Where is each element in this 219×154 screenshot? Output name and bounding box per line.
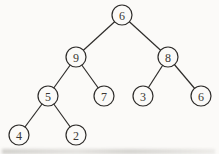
tree-node-left-left: 5 bbox=[38, 86, 58, 106]
tree-node-label-ll-right: 2 bbox=[73, 129, 79, 143]
tree-node-root: 6 bbox=[112, 5, 132, 25]
tree-node-label-right-left: 3 bbox=[140, 90, 146, 104]
tree-node-label-left-left: 5 bbox=[45, 90, 51, 104]
tree-node-left-right: 7 bbox=[94, 86, 114, 106]
tree-svg: 698573642 bbox=[0, 0, 219, 154]
tree-node-ll-right: 2 bbox=[66, 125, 86, 145]
binary-tree-diagram: 698573642 bbox=[0, 0, 219, 154]
tree-node-label-right-right: 6 bbox=[198, 90, 204, 104]
tree-node-right: 8 bbox=[158, 47, 178, 67]
diagram-background bbox=[0, 0, 219, 154]
tree-node-right-left: 3 bbox=[133, 86, 153, 106]
tree-node-label-right: 8 bbox=[165, 51, 171, 65]
tree-node-right-right: 6 bbox=[191, 86, 211, 106]
tree-node-label-left-right: 7 bbox=[101, 90, 107, 104]
tree-node-label-root: 6 bbox=[119, 9, 125, 23]
tree-node-label-ll-left: 4 bbox=[16, 129, 22, 143]
tree-node-ll-left: 4 bbox=[9, 125, 29, 145]
tree-node-label-left: 9 bbox=[73, 51, 79, 65]
tree-node-left: 9 bbox=[66, 47, 86, 67]
